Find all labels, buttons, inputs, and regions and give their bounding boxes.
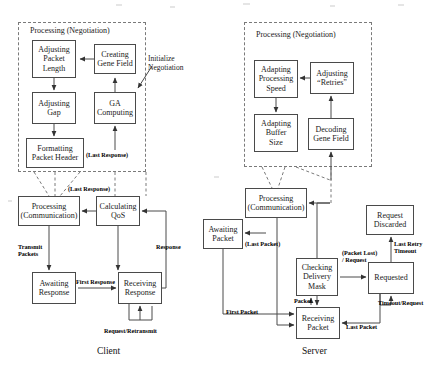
node-creating-gene-field[interactable]: Creating Gene Field (94, 44, 136, 74)
node-label: Checking Delivery Mask (302, 263, 333, 292)
node-label: Receiving Response (124, 279, 156, 298)
edge-label-last-packet-receiving: Last Packet (346, 323, 377, 330)
node-label: GA Computing (97, 99, 133, 118)
node-adjusting-retries[interactable]: Adjusting “Retries” (310, 62, 354, 94)
edge-label-first-response: First Response (76, 278, 115, 285)
node-label: Adapting Buffer Size (261, 119, 291, 148)
node-adapting-buffer-size[interactable]: Adapting Buffer Size (254, 114, 298, 152)
node-label: Requested (374, 273, 407, 283)
node-label: Adjusting “Retries” (316, 69, 348, 88)
edge-label-timeout-request: Timeout/Request (378, 299, 423, 306)
edge-label-initialize-negotiation: Initialize Negotiation (148, 55, 183, 72)
node-receiving-response[interactable]: Receiving Response (118, 272, 162, 304)
node-awaiting-packet[interactable]: Awaiting Packet (203, 219, 243, 249)
edge-label-last-response-qos: (Last Response) (68, 185, 110, 192)
node-label: Decoding Gene Field (313, 125, 348, 144)
node-label: Processing (Communication) (21, 202, 78, 221)
node-awaiting-response[interactable]: Awaiting Response (32, 272, 76, 304)
scan-speckle (116, 4, 122, 6)
node-ga-computing[interactable]: GA Computing (94, 92, 136, 124)
node-label: Calculating QoS (100, 202, 137, 221)
edge-label-last-packet-awaiting: (Last Packet) (245, 240, 280, 247)
edge-label-transmit-packets: Transmit Packets (18, 243, 42, 257)
scan-speckle (330, 5, 335, 7)
node-adjusting-gap[interactable]: Adjusting Gap (32, 92, 76, 124)
node-adjusting-packet-length[interactable]: Adjusting Packet Length (32, 40, 76, 78)
server-negotiation-group-label: Processing (Negotiation) (256, 30, 336, 39)
node-receiving-packet[interactable]: Receiving Packet (296, 307, 340, 339)
node-formatting-packet-header[interactable]: Formatting Packet Header (26, 138, 84, 168)
edge-label-last-retry-timeout: Last Retry Timeout (394, 240, 422, 254)
node-adapting-processing-speed[interactable]: Adapting Processing Speed (254, 60, 298, 98)
node-processing-communication-server[interactable]: Processing (Communication) (245, 188, 307, 218)
edge-label-packet: Packet (294, 297, 312, 304)
node-label: Adjusting Packet Length (38, 45, 70, 74)
node-label: Adjusting Gap (38, 99, 70, 118)
node-calculating-qos[interactable]: Calculating QoS (96, 196, 140, 226)
node-label: Formatting Packet Header (32, 144, 78, 163)
edge-label-request-retransmit: Request/Retransmit (104, 327, 157, 334)
node-label: Processing (Communication) (248, 194, 305, 213)
edge-label-last-response-negotiation: (Last Response) (86, 151, 128, 158)
scan-speckle (170, 6, 175, 8)
scan-speckle (398, 4, 404, 6)
diagram-canvas: Processing (Negotiation) Processing (Neg… (0, 0, 441, 367)
node-label: Receiving Packet (302, 314, 334, 333)
edge-label-first-packet: First Packet (226, 308, 258, 315)
scan-speckle (8, 200, 12, 202)
node-processing-communication-client[interactable]: Processing (Communication) (18, 196, 80, 226)
edge-label-response: Response (156, 243, 181, 250)
node-request-discarded[interactable]: Request Discarded (366, 205, 414, 235)
node-label: Request Discarded (374, 211, 406, 230)
node-label: Awaiting Response (39, 279, 70, 298)
edge-label-packet-lost-request: (Packet Lost) / Request (342, 249, 377, 263)
node-checking-delivery-mask[interactable]: Checking Delivery Mask (296, 258, 338, 296)
caption-server: Server (302, 346, 327, 357)
node-decoding-gene-field[interactable]: Decoding Gene Field (308, 118, 354, 150)
scan-speckle (243, 3, 250, 5)
client-negotiation-group-label: Processing (Negotiation) (30, 26, 110, 35)
node-requested[interactable]: Requested (368, 262, 414, 294)
node-label: Awaiting Packet (208, 225, 237, 244)
caption-client: Client (97, 346, 120, 357)
node-label: Creating Gene Field (97, 50, 132, 69)
node-label: Adapting Processing Speed (259, 65, 294, 94)
scan-speckle (214, 176, 219, 178)
